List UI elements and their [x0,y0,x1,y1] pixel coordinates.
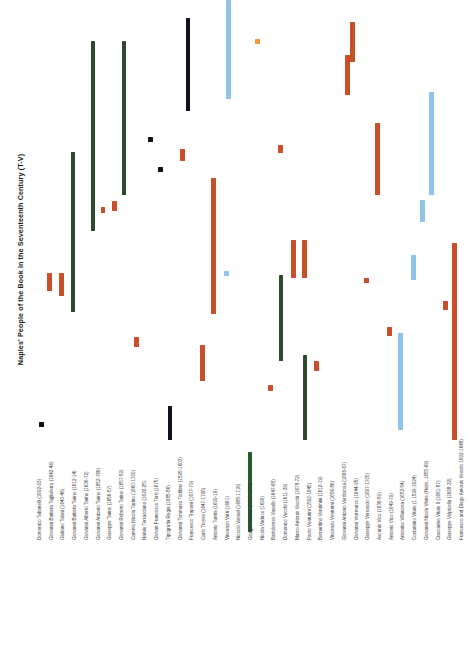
gantt-bar [303,355,307,440]
x-tick-label-text: Antonino Villanova (1652-54) [400,481,405,540]
gantt-bar [158,167,163,172]
gantt-bar [345,55,350,95]
gantt-bar [200,345,205,381]
x-tick-label-text: Nicola Vaduco (1699) [260,496,265,540]
gantt-bar [302,240,307,278]
gantt-bar [148,137,153,142]
x-tick-label-text: Francesco and Diego Antonio Vessilo 1692… [459,439,464,540]
gantt-bar [398,333,403,430]
x-tick-label-text: Antonio Turrini (1609-19) [213,489,218,540]
gantt-bar [59,273,64,296]
x-tick-label-text: Ciaccarino Vitale II (1661-87) [436,481,441,540]
x-tick-label-text: Marco Antonio Vecchi (1678-72) [295,475,300,540]
x-tick-label-text: Bartolomeo Vasallo (1647-68) [271,479,276,540]
x-tick-label-text: Cammo Nicola Tarino (1660-1700) [131,470,136,540]
gantt-bar [452,243,457,440]
gantt-bar [375,123,380,195]
x-tick-label-text: Giuseppe Versaccio (1697-1705) [365,473,370,540]
plot-area [30,0,464,530]
gantt-bar [112,201,117,211]
x-tick-label-text: Giovanni Battista Tagliaferro (1642-46) [49,461,54,540]
x-tick-label-text: Giovanni Antonio Verdorosa (1666-67) [342,462,347,540]
x-tick-label-text: Giovanni Alberto Tarino (1636-72) [84,471,89,540]
gantt-bar [279,275,283,361]
x-tick-label-text: Carlo Troyse (1647-1706) [201,488,206,540]
gantt-bar [211,178,216,314]
x-tick-label-text: Tipografia Regia (1685-86) [166,485,171,540]
x-tick-label-text: Paolo Venturini (1592-1645) [307,483,312,540]
gantt-bar [350,22,355,62]
x-tick-label-text: Giovanni Tommaso Toddino (1595-1603) [178,457,183,540]
x-tick-label-text: Domenico Vecchi (1611-39) [283,484,288,540]
x-tick-label-text: Antonio Vico (1649-79) [389,493,394,540]
gantt-bar [226,0,231,99]
x-tick-label-text: Vincenzo Venturini (1656-86) [330,481,335,540]
x-tick-label-text: Natale Terracciano (1622-25) [142,481,147,540]
x-tick-label-text: Costantino Vitale (1 1599-1624) [412,475,417,540]
page-title: Naples' People of the Book in the Sevent… [16,30,25,490]
gantt-bar [180,149,185,161]
gantt-bar [71,152,75,312]
gantt-bar [134,337,139,347]
gantt-bar [420,200,425,222]
x-tick-label-text: Giovanni Roberto Tarino (1657-59) [119,469,124,540]
x-tick-label-text: Francesco Trapani (1677-79) [189,481,194,540]
gantt-bar [47,273,52,291]
x-tick-label-text: Domenico Tabanelli (1692-93) [37,479,42,540]
gantt-bar [443,301,448,310]
x-tick-label-text: Giorgio Varnuzi (1597-1686) [248,482,253,540]
gantt-bar [39,422,44,427]
x-tick-label-text: Giuseppe Volpicella (1698-32) [447,478,452,540]
x-tick-label-text: Giovanni Nicola Vitale (Heirs, 1655-69) [424,461,429,540]
gantt-bar [101,207,105,213]
x-tick-label-text: Giovanni Battista Tarino (1612-14) [72,470,77,540]
x-tick-label-text: Giovan Francesco Terri (1675) [154,478,159,540]
x-tick-label-text: Giovanni Verrmarco (1644-95) [354,478,359,540]
x-tick-label-text: Vincenzo Vatri (1661) [225,496,230,540]
x-tick-label-text: Ascanio Vico (1636-59) [377,492,382,540]
gantt-bar [278,145,283,153]
gantt-bar [268,385,273,391]
gantt-bar [291,240,296,278]
gantt-bar [429,92,434,195]
gantt-bar [364,278,369,283]
gantt-bar [411,255,416,280]
x-tick-label-text: Giovanni Antonio Tarino (1652-766) [96,468,101,540]
gantt-bar [168,406,172,440]
gantt-bar [122,41,126,195]
x-tick-label-text: Niccolo Valvuri (1685-1716) [236,484,241,540]
gantt-bar [387,327,392,336]
x-axis-labels: Domenico Tabanelli (1692-93)Giovanni Bat… [30,530,464,669]
gantt-bar [91,41,95,231]
x-tick-label-text: Bernardino Ventimini (1612-19) [318,476,323,540]
gantt-bar [255,39,260,44]
gantt-bar [314,361,319,371]
x-tick-label-text: Giuliano Talani (1640-46) [60,489,65,540]
gantt-bar [224,271,229,276]
gantt-bar [186,18,190,111]
x-tick-label-text: Giuseppe Tarino (1656-57) [107,485,112,540]
